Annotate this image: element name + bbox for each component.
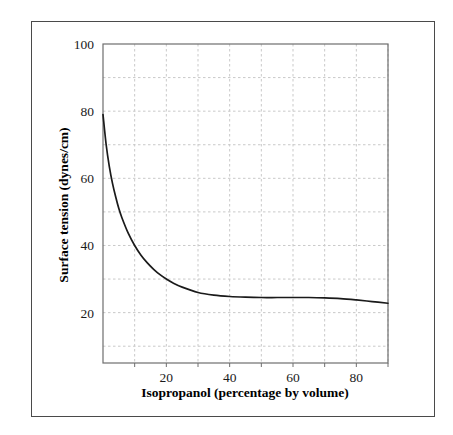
x-tick-label: 80 [350,370,364,385]
figure-root: 20406080 20406080100 Isopropanol (percen… [0,0,453,435]
y-tick-label: 20 [81,306,95,321]
x-axis-title: Isopropanol (percentage by volume) [141,385,349,400]
y-axis-title: Surface tension (dynes/cm) [56,127,71,282]
x-tick-labels: 20406080 [160,370,364,385]
y-tick-label: 60 [81,171,95,186]
x-tick-label: 40 [223,370,237,385]
plot-frame [103,44,388,363]
x-tick-label: 60 [286,370,300,385]
x-tick-label: 20 [160,370,174,385]
y-tick-label: 80 [81,104,95,119]
plot-area-border [103,44,388,363]
y-tick-label: 100 [74,37,95,52]
data-line-group [103,115,388,304]
data-series-line [103,115,388,304]
grid-lines [103,44,388,363]
y-tick-label: 40 [81,238,95,253]
surface-tension-chart: 20406080 20406080100 Isopropanol (percen… [0,0,453,435]
y-tick-labels: 20406080100 [74,37,95,321]
